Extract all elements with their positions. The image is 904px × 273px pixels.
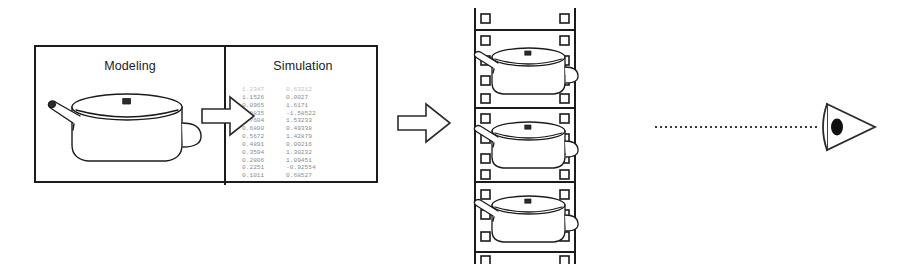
simulation-value-b: 1.09451 [286,157,342,165]
simulation-value-b: 0.0027 [286,94,342,102]
simulation-value-b: 1.42879 [286,133,342,141]
simulation-value-b: 0.63212 [286,86,342,94]
arrow-modeling-to-simulation [200,88,256,144]
simulation-data-row: 0.10110.68527 [242,172,368,180]
simulation-data-row: 0.8835-1.58522 [242,110,368,118]
eye-icon [818,101,880,153]
simulation-data-row: 0.35941.30232 [242,149,368,157]
simulation-data-row: 0.68000.49338 [242,125,368,133]
simulation-value-b: 0.68527 [286,172,342,180]
simulation-value-b: -1.58522 [286,110,342,118]
panel-modeling: Modeling [36,47,224,185]
simulation-data-row: 0.48910.00216 [242,141,368,149]
saucepan-icon [44,83,216,175]
panel-simulation-title: Simulation [226,59,380,73]
simulation-value-a: 0.2806 [242,157,286,165]
filmstrip [470,8,580,264]
simulation-value-a: 0.1011 [242,172,286,180]
sight-line [655,126,820,128]
simulation-data-row: 0.56721.42879 [242,133,368,141]
simulation-value-b: 1.6171 [286,102,342,110]
simulation-data-row: 0.76041.53233 [242,117,368,125]
simulation-value-b: 0.49338 [286,125,342,133]
simulation-data-table: 1.23470.632121.15260.00270.09651.61710.8… [242,86,368,180]
simulation-value-b: 1.30232 [286,149,342,157]
simulation-value-b: 1.53233 [286,117,342,125]
simulation-data-row: 1.23470.63212 [242,86,368,94]
simulation-value-b: 0.00216 [286,141,342,149]
simulation-data-row: 0.28061.09451 [242,157,368,165]
simulation-value-a: 0.2251 [242,164,286,172]
simulation-value-a: 0.3594 [242,149,286,157]
simulation-data-row: 0.2251-0.92554 [242,164,368,172]
simulation-data-row: 1.15260.0027 [242,94,368,102]
arrow-simulation-to-film [396,97,452,149]
simulation-value-b: -0.92554 [286,164,342,172]
panel-modeling-title: Modeling [36,59,224,73]
simulation-data-row: 0.09651.6171 [242,102,368,110]
figure-canvas: Modeling [0,0,904,273]
